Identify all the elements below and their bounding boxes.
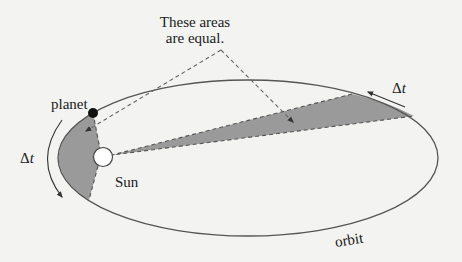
callout-pointer-right xyxy=(221,50,293,122)
right-shaded-area xyxy=(112,94,414,155)
delta-t-left-label: Δt xyxy=(20,150,34,166)
delta-symbol: Δ xyxy=(392,80,402,96)
kepler-diagram: These areas are equal. planet Sun Δt Δt … xyxy=(0,0,462,262)
sun-icon xyxy=(94,148,113,167)
callout-line-1: These areas xyxy=(130,14,260,30)
equal-areas-callout: These areas are equal. xyxy=(130,14,260,46)
t-variable: t xyxy=(30,150,34,166)
callout-line-2: are equal. xyxy=(130,30,260,46)
sun-label: Sun xyxy=(115,174,138,190)
delta-symbol: Δ xyxy=(20,150,30,166)
callout-pointer-left xyxy=(86,50,221,131)
t-variable: t xyxy=(402,80,406,96)
planet-label: planet xyxy=(51,96,88,112)
planet-icon xyxy=(88,108,98,118)
delta-t-right-label: Δt xyxy=(392,80,406,96)
